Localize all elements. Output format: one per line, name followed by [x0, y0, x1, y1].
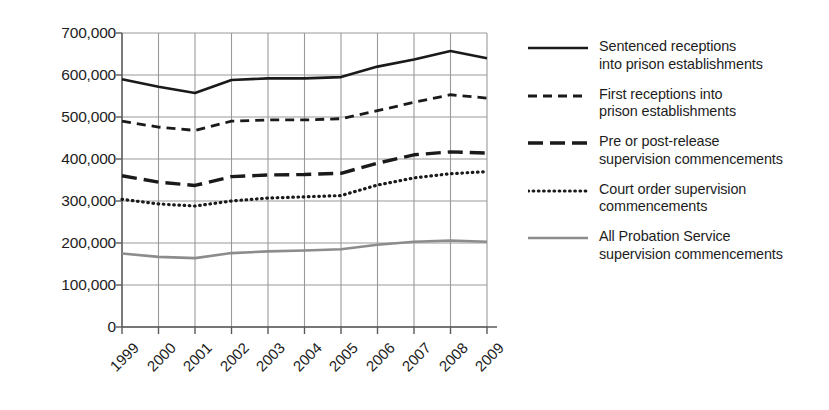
legend-item[interactable]: Sentenced receptionsinto prison establis… — [528, 38, 828, 73]
legend-line-swatch — [528, 228, 588, 248]
chart-container: 700,000600,000500,000400,000300,000200,0… — [0, 0, 829, 410]
legend-item[interactable]: Pre or post-releasesupervision commencem… — [528, 133, 828, 168]
legend-label: Court order supervisioncommencements — [599, 181, 746, 216]
legend-label-line: First receptions into — [599, 86, 736, 104]
legend-line-swatch — [528, 86, 588, 106]
legend-item[interactable]: Court order supervisioncommencements — [528, 181, 828, 216]
legend-label-line: supervision commencements — [599, 246, 783, 264]
legend-line-swatch — [528, 181, 588, 201]
chart-legend: Sentenced receptionsinto prison establis… — [528, 38, 828, 276]
legend-label-line: Court order supervision — [599, 181, 746, 199]
legend-label-line: Pre or post-release — [599, 133, 783, 151]
legend-label: Pre or post-releasesupervision commencem… — [599, 133, 783, 168]
legend-line-swatch — [528, 38, 588, 58]
legend-item[interactable]: All Probation Servicesupervision commenc… — [528, 228, 828, 263]
legend-line-swatch — [528, 133, 588, 153]
legend-label-line: supervision commencements — [599, 151, 783, 169]
legend-label-line: All Probation Service — [599, 228, 783, 246]
legend-label-line: into prison establishments — [599, 56, 763, 74]
legend-label-line: Sentenced receptions — [599, 38, 763, 56]
legend-label-line: commencements — [599, 198, 746, 216]
legend-label: All Probation Servicesupervision commenc… — [599, 228, 783, 263]
legend-item[interactable]: First receptions intoprison establishmen… — [528, 86, 828, 121]
legend-label-line: prison establishments — [599, 103, 736, 121]
legend-label: Sentenced receptionsinto prison establis… — [599, 38, 763, 73]
legend-label: First receptions intoprison establishmen… — [599, 86, 736, 121]
